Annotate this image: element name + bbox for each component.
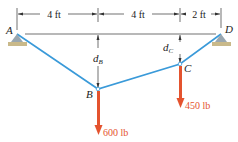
load-label-b: 600 lb [103, 127, 128, 138]
point-label-c: C [184, 62, 192, 74]
load-arrow-b [95, 91, 103, 135]
node-c [178, 62, 182, 66]
support-d [212, 34, 231, 46]
dim-label-cd: 2 ft [192, 9, 206, 20]
cable-diagram: 4 ft 4 ft 2 ft dB dC A D B C 600 lb [0, 0, 238, 142]
point-label-b: B [86, 88, 93, 100]
sag-dimension-c [179, 35, 182, 63]
sag-label-db: dB [93, 52, 104, 66]
point-label-a: A [5, 24, 13, 36]
dim-label-bc: 4 ft [131, 9, 145, 20]
sag-label-dc: dC [163, 41, 174, 55]
node-b [96, 87, 100, 91]
point-label-d: D [224, 23, 233, 35]
dim-label-ab: 4 ft [47, 9, 61, 20]
load-label-c: 450 lb [185, 100, 210, 111]
